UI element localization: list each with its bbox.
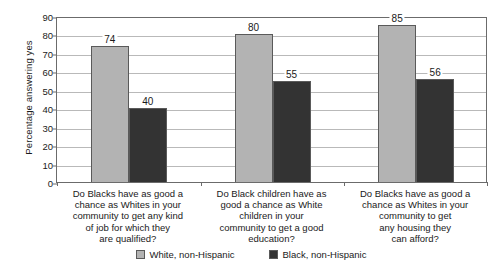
category-tick <box>57 182 58 186</box>
bar <box>235 34 273 182</box>
plot-area: 0102030405060708090 744080558556 <box>56 17 487 183</box>
y-tick-label: 40 <box>42 105 53 115</box>
x-category-label: Do Blacks have as good achance as Whites… <box>56 188 200 244</box>
x-category-label: Do Blacks have as good achance as Whites… <box>343 188 487 244</box>
bar <box>416 79 454 182</box>
x-category-label: Do Black children have asgood a chance a… <box>200 188 344 244</box>
y-tick-label: 50 <box>42 87 53 97</box>
y-tick-label: 90 <box>42 13 53 23</box>
bar-value-label: 40 <box>140 97 155 107</box>
category-tick <box>201 182 202 186</box>
y-tick-label: 70 <box>42 50 53 60</box>
y-tick-label: 80 <box>42 32 53 42</box>
legend-swatch-icon <box>136 250 145 259</box>
bar-value-label: 80 <box>246 23 261 33</box>
y-tick-label: 30 <box>42 124 53 134</box>
bar-value-label: 55 <box>284 70 299 80</box>
y-tick-label: 10 <box>42 161 53 171</box>
category-tick <box>344 182 345 186</box>
legend-label: White, non-Hispanic <box>150 250 235 260</box>
bar <box>129 108 167 182</box>
y-tick-label: 60 <box>42 69 53 79</box>
bar-value-label: 85 <box>390 14 405 24</box>
y-tick-label: 20 <box>42 142 53 152</box>
bar <box>91 46 129 182</box>
category-tick <box>487 182 488 186</box>
legend-item: White, non-Hispanic <box>136 250 235 260</box>
legend-item: Black, non-Hispanic <box>269 250 367 260</box>
chart-legend: White, non-HispanicBlack, non-Hispanic <box>0 250 502 260</box>
y-axis-title: Percentage answering yes <box>23 8 34 188</box>
bar-chart: Percentage answering yes 010203040506070… <box>0 0 502 277</box>
bar-value-label: 74 <box>102 35 117 45</box>
legend-label: Black, non-Hispanic <box>283 250 367 260</box>
x-axis-category-labels: Do Blacks have as good achance as Whites… <box>56 188 487 246</box>
bars-layer: 744080558556 <box>57 18 486 182</box>
bar <box>378 25 416 182</box>
legend-swatch-icon <box>269 250 278 259</box>
bar-value-label: 56 <box>428 68 443 78</box>
bar <box>273 81 311 182</box>
